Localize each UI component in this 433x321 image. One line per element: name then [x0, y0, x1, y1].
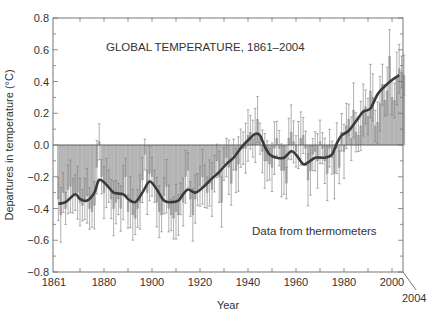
y-tick-label: −0.4 [27, 203, 49, 215]
x-tick-label: 2000 [380, 276, 404, 288]
x-tick-label: 1880 [92, 276, 116, 288]
x-tick-label: 1900 [140, 276, 164, 288]
y-tick-label: −0.6 [27, 234, 49, 246]
x-axis-title: Year [217, 299, 240, 311]
temperature-chart: 0.80.60.40.20.0−0.2−0.4−0.6−0.8 18611880… [0, 0, 433, 321]
x-tick-label: 1920 [188, 276, 212, 288]
x-tick-label: 1861 [42, 276, 66, 288]
chart-title: GLOBAL TEMPERATURE, 1861–2004 [106, 41, 305, 53]
y-tick-label: 0.6 [34, 44, 49, 56]
y-tick-label: −0.2 [27, 171, 49, 183]
y-tick-label: 0.2 [34, 107, 49, 119]
data-source-annotation: Data from thermometers [252, 225, 377, 237]
x-tick-label: 1980 [332, 276, 356, 288]
x-tick-label: 1940 [236, 276, 260, 288]
end-year-leader [403, 272, 416, 290]
y-tick-label: 0.0 [34, 139, 49, 151]
y-tick-label: 0.8 [34, 12, 49, 24]
x-tick-label: 1960 [284, 276, 308, 288]
y-tick-labels: 0.80.60.40.20.0−0.2−0.4−0.6−0.8 [27, 12, 49, 278]
x-end-label: 2004 [402, 292, 426, 304]
y-axis-title: Departures in temperature (°C) [3, 69, 15, 220]
x-tick-labels: 18611880190019201940196019802000 [42, 276, 404, 288]
y-tick-label: 0.4 [34, 76, 49, 88]
